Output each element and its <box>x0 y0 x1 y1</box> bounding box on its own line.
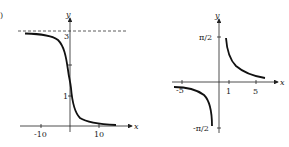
tick-label-5: 5 <box>253 87 258 96</box>
tick-label-10: 10 <box>94 130 104 139</box>
right-chart: y x -5 1 5 π/2 -π/2 <box>172 11 285 133</box>
tick-label-pi-over-2: π/2 <box>199 33 212 42</box>
tick-label-1: 1 <box>63 92 68 101</box>
curve <box>25 34 116 126</box>
y-axis-label: y <box>65 10 71 19</box>
right-branch-curve <box>226 38 265 78</box>
tick-label-1: 1 <box>226 87 231 96</box>
x-axis-label: x <box>134 122 139 131</box>
left-chart: ) y x -10 10 1 3 <box>0 10 139 139</box>
tick-label-neg-pi-over-2: -π/2 <box>193 124 209 133</box>
tick-label-neg5: -5 <box>176 86 184 95</box>
tick-label-neg10: -10 <box>34 130 47 139</box>
panel-label: ) <box>0 11 3 20</box>
tick-label-3: 3 <box>64 32 69 41</box>
figure: ) y x -10 10 1 3 <box>0 0 289 147</box>
x-axis-label: x <box>280 78 285 87</box>
y-axis-label: y <box>214 11 220 20</box>
